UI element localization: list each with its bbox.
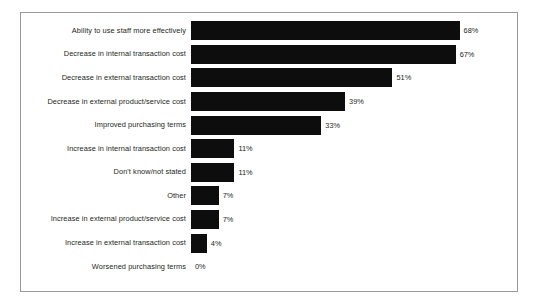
bar-track: 11% — [191, 137, 517, 161]
bar — [191, 45, 456, 64]
category-label: Improved purchasing terms — [21, 121, 191, 129]
bar-row: Decrease in external product/service cos… — [21, 90, 517, 114]
chart-frame: Ability to use staff more effectively68%… — [20, 12, 518, 292]
bar-chart-plot-area: Ability to use staff more effectively68%… — [21, 13, 517, 291]
bar-value-label: 67% — [456, 50, 475, 59]
category-label: Worsened purchasing terms — [21, 263, 191, 271]
category-label: Decrease in external transaction cost — [21, 74, 191, 82]
bar-row: Improved purchasing terms33% — [21, 113, 517, 137]
category-label: Decrease in internal transaction cost — [21, 50, 191, 58]
bar-row: Worsened purchasing terms0% — [21, 255, 517, 279]
category-label: Other — [21, 192, 191, 200]
bar-track: 68% — [191, 19, 517, 43]
bar-value-label: 68% — [460, 26, 479, 35]
bar-row: Ability to use staff more effectively68% — [21, 19, 517, 43]
bar-track: 33% — [191, 113, 517, 137]
bar — [191, 116, 321, 135]
bar — [191, 68, 392, 87]
bar — [191, 234, 207, 253]
bar-row: Other7% — [21, 184, 517, 208]
bar-track: 39% — [191, 90, 517, 114]
bar-track: 0% — [191, 255, 517, 279]
bar — [191, 139, 234, 158]
bar — [191, 21, 460, 40]
bar-track: 67% — [191, 43, 517, 67]
bar — [191, 163, 234, 182]
bar-track: 7% — [191, 208, 517, 232]
bar-value-label: 51% — [392, 73, 411, 82]
category-label: Decrease in external product/service cos… — [21, 98, 191, 106]
bar-value-label: 39% — [345, 97, 364, 106]
bar-track: 4% — [191, 231, 517, 255]
bar-value-label: 7% — [219, 215, 234, 224]
bar-value-label: 33% — [321, 121, 340, 130]
bar-track: 7% — [191, 184, 517, 208]
bar-row: Decrease in external transaction cost51% — [21, 66, 517, 90]
bar-value-label: 11% — [234, 144, 252, 153]
bar-value-label: 7% — [219, 191, 234, 200]
category-label: Increase in internal transaction cost — [21, 145, 191, 153]
category-label: Increase in external product/service cos… — [21, 215, 191, 223]
bar-row: Don't know/not stated11% — [21, 161, 517, 185]
bar-value-label: 4% — [207, 239, 222, 248]
bar-row: Increase in external transaction cost4% — [21, 231, 517, 255]
category-label: Increase in external transaction cost — [21, 239, 191, 247]
bar-track: 11% — [191, 161, 517, 185]
bar-track: 51% — [191, 66, 517, 90]
bar — [191, 186, 219, 205]
bar-row: Increase in internal transaction cost11% — [21, 137, 517, 161]
bar — [191, 92, 345, 111]
bar-row: Increase in external product/service cos… — [21, 208, 517, 232]
bar-row: Decrease in internal transaction cost67% — [21, 43, 517, 67]
category-label: Ability to use staff more effectively — [21, 27, 191, 35]
bar — [191, 210, 219, 229]
category-label: Don't know/not stated — [21, 168, 191, 176]
bar-value-label: 11% — [234, 168, 252, 177]
bar-value-label: 0% — [191, 262, 206, 271]
